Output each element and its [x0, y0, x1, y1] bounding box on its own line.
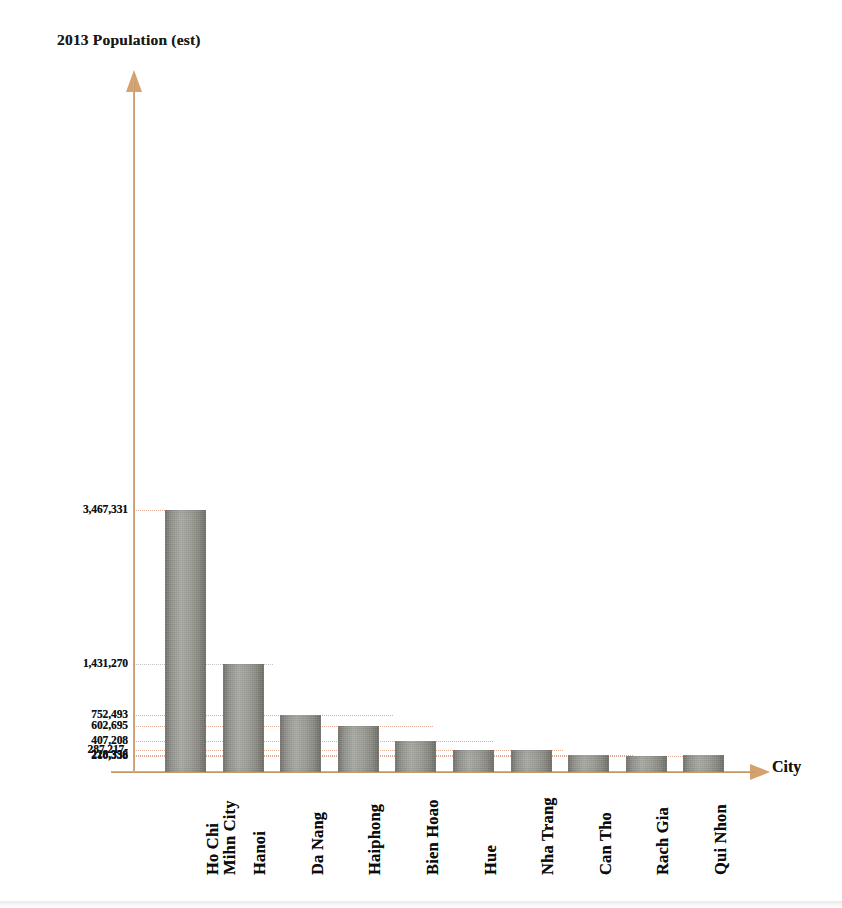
y-axis-title: 2013 Population (est)	[57, 31, 201, 49]
y-tick-label: 602,695	[66, 719, 128, 731]
bar-chart: 2013 Population (est) City 3,467,3311,43…	[0, 0, 842, 908]
y-axis-line	[133, 78, 135, 773]
x-category-label: Da Nang	[310, 812, 327, 875]
bar	[568, 755, 609, 772]
bar	[165, 510, 206, 772]
bar	[395, 741, 436, 772]
y-tick-label: 3,467,331	[66, 503, 128, 515]
y-tick-label: 210,338	[66, 749, 128, 761]
x-category-label: Haiphong	[367, 804, 384, 875]
scan-edge-artifact	[0, 901, 842, 908]
x-category-label: Hue	[483, 845, 500, 875]
x-category-label: Rach Gia	[655, 807, 672, 875]
bar	[280, 715, 321, 772]
x-axis-arrow-icon	[750, 764, 770, 780]
bar	[683, 755, 724, 772]
bar	[453, 750, 494, 772]
y-tick-label: 1,431,270	[66, 657, 128, 669]
bar	[511, 750, 552, 772]
x-category-label: Bien Hoao	[425, 799, 442, 875]
x-category-label: Ho Chi Mihn City	[205, 800, 239, 875]
bar	[626, 756, 667, 772]
x-axis-title: City	[772, 758, 801, 776]
x-category-label: Qui Nhon	[713, 804, 730, 875]
bar	[338, 726, 379, 772]
bar	[223, 664, 264, 772]
x-category-label: Nha Trang	[540, 797, 557, 875]
y-tick-label: 752,493	[66, 708, 128, 720]
x-category-label: Hanoi	[252, 831, 269, 875]
x-category-label: Can Tho	[598, 812, 615, 875]
